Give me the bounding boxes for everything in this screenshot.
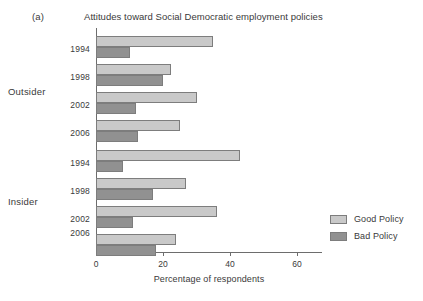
group-label-outsider: Outsider (8, 86, 64, 97)
year-label-insider-1998: 1998 (50, 186, 90, 196)
chart-figure: (a) Attitudes toward Social Democratic e… (0, 0, 423, 301)
bar-good-policy-outsider-1994 (96, 36, 213, 47)
legend-label-bad-policy: Bad Policy (354, 231, 398, 241)
legend-swatch-good-policy-icon (330, 215, 347, 224)
x-tick-label-60: 60 (292, 259, 301, 269)
x-tick-20 (163, 252, 164, 256)
bar-bad-policy-insider-2002 (96, 217, 133, 228)
bar-bad-policy-outsider-2002 (96, 103, 136, 114)
legend-label-good-policy: Good Policy (354, 214, 404, 224)
year-label-outsider-2002: 2002 (50, 100, 90, 110)
bar-bad-policy-outsider-1998 (96, 75, 163, 86)
bar-bad-policy-insider-1998 (96, 189, 153, 200)
bar-bad-policy-insider-2006 (96, 245, 156, 256)
bar-good-policy-outsider-2006 (96, 120, 180, 131)
year-label-insider-1994: 1994 (50, 158, 90, 168)
x-tick-label-40: 40 (225, 259, 234, 269)
year-label-outsider-1998: 1998 (50, 72, 90, 82)
bar-bad-policy-insider-1994 (96, 161, 123, 172)
bar-good-policy-insider-2002 (96, 206, 217, 217)
chart-legend: Good Policy Bad Policy (330, 212, 404, 246)
bar-bad-policy-outsider-2006 (96, 131, 138, 142)
legend-swatch-bad-policy-icon (330, 232, 347, 241)
panel-label: (a) (32, 11, 44, 22)
legend-item-bad-policy: Bad Policy (330, 229, 404, 243)
bar-good-policy-insider-1998 (96, 178, 186, 189)
bar-bad-policy-outsider-1994 (96, 47, 130, 58)
chart-title: Attitudes toward Social Democratic emplo… (84, 11, 323, 22)
x-tick-40 (230, 252, 231, 256)
bar-good-policy-outsider-2002 (96, 92, 197, 103)
group-label-insider: Insider (8, 196, 64, 207)
bar-good-policy-insider-1994 (96, 150, 240, 161)
x-axis-title: Percentage of respondents (96, 274, 322, 284)
x-tick-label-0: 0 (94, 259, 99, 269)
year-label-insider-2006: 2006 (50, 228, 90, 238)
year-label-outsider-2006: 2006 (50, 128, 90, 138)
x-tick-label-20: 20 (158, 259, 167, 269)
year-label-insider-2002: 2002 (50, 214, 90, 224)
legend-item-good-policy: Good Policy (330, 212, 404, 226)
x-tick-60 (297, 252, 298, 256)
bar-good-policy-insider-2006 (96, 234, 176, 245)
year-label-outsider-1994: 1994 (50, 44, 90, 54)
bar-good-policy-outsider-1998 (96, 64, 171, 75)
